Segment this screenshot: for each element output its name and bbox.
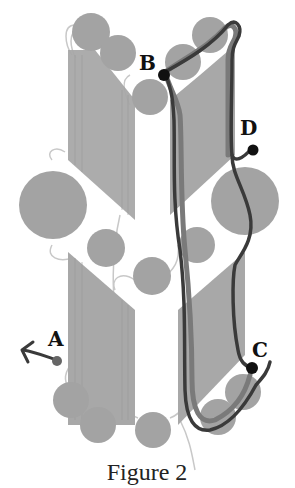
- figure-caption: Figure 2: [107, 459, 188, 485]
- marker-d: [248, 145, 259, 156]
- helix-top-center: [132, 79, 168, 115]
- helices: [19, 13, 279, 448]
- helix-top-left-2: [100, 35, 136, 71]
- label-c: C: [252, 338, 268, 362]
- label-b: B: [139, 51, 156, 75]
- marker-b: [158, 69, 170, 81]
- marker-a: [52, 356, 62, 366]
- helix-big-left: [19, 171, 87, 239]
- helix-bottom-left-1: [53, 382, 89, 418]
- protein-topology-diagram: B D A C Figure 2: [0, 0, 295, 488]
- helix-top-right-2: [192, 17, 228, 53]
- label-a: A: [47, 327, 64, 351]
- label-d: D: [240, 116, 257, 140]
- helix-bottom-center: [135, 412, 171, 448]
- helix-mid-center: [133, 257, 171, 295]
- marker-c: [246, 362, 258, 374]
- helix-bottom-left-2: [80, 407, 116, 443]
- helix-mid-left: [87, 229, 125, 267]
